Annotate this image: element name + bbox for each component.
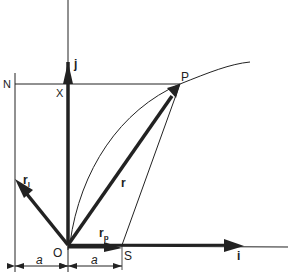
dim-left-arrow-end-icon	[59, 263, 68, 269]
label-rl: rl	[23, 173, 30, 189]
label-rl-sub: l	[28, 180, 30, 189]
label-X: X	[56, 87, 64, 99]
dim-left-arrow-start-icon	[15, 263, 24, 269]
dim-right-arrow-end-icon	[113, 263, 122, 269]
label-rp-sub: p	[104, 233, 109, 242]
label-r: r	[121, 176, 126, 190]
dim-right-arrow-start-icon	[68, 263, 77, 269]
i-arrowhead-icon	[224, 239, 244, 252]
label-N: N	[3, 78, 11, 90]
label-S: S	[124, 249, 132, 263]
r-arrowhead-icon	[167, 84, 180, 98]
label-O: O	[53, 246, 62, 260]
label-P: P	[181, 70, 189, 84]
label-j: j	[73, 57, 77, 71]
r-vector	[68, 96, 172, 245]
label-i: i	[237, 249, 240, 263]
rp-arrowhead-icon	[104, 242, 122, 252]
vector-diagram: N X j P r rl rp O S i a a	[0, 0, 294, 279]
trajectory-curve	[70, 62, 250, 243]
j-arrowhead-icon	[63, 62, 73, 84]
line-S-P	[122, 84, 180, 245]
rl-vector	[22, 188, 68, 245]
label-rp: rp	[99, 226, 109, 242]
label-dim-right-a: a	[91, 253, 98, 267]
label-dim-left-a: a	[36, 253, 43, 267]
